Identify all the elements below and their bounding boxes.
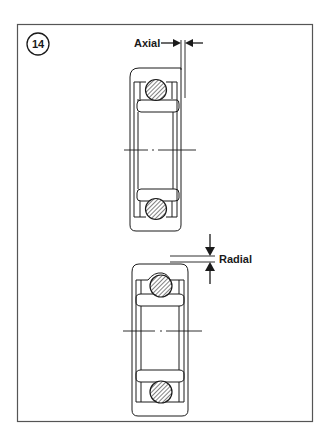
ball-icon — [150, 381, 172, 403]
figure-number-badge: 14 — [27, 33, 49, 55]
axial-label: Axial — [134, 37, 160, 49]
arrow-right-icon — [173, 39, 181, 47]
figure-number: 14 — [32, 38, 45, 50]
arrow-up-icon — [205, 262, 215, 271]
ball-icon — [146, 80, 167, 101]
arrow-down-icon — [205, 247, 215, 256]
bearing-clearance-diagram: 14 Axial — [0, 0, 330, 441]
ball-icon — [146, 199, 167, 220]
arrow-left-icon — [185, 39, 193, 47]
radial-clearance-indicator — [170, 234, 215, 284]
ball-icon — [150, 275, 172, 297]
radial-label: Radial — [219, 253, 252, 265]
